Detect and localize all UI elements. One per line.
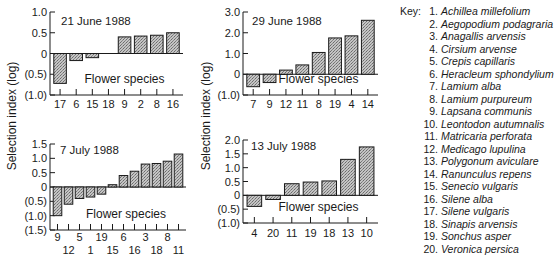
bar <box>108 185 117 187</box>
y-tick-label: (1.0) <box>24 210 47 222</box>
y-tick-label: 1.0 <box>225 162 240 174</box>
x-category-label: 8 <box>154 98 160 110</box>
bar <box>167 33 180 54</box>
key-item: 14.Ranunculus repens <box>420 168 550 181</box>
key-species-name: Silene alba <box>441 193 493 205</box>
key-number: 15. <box>420 180 438 193</box>
bar <box>130 171 139 187</box>
y-tick-label: (1.0) <box>24 89 47 101</box>
y-tick-label: (1.0) <box>217 89 240 101</box>
key-item: 18.Sinapis arvensis <box>420 218 550 231</box>
chart-panel-29-june: 3.02.01.00(1.0)29 June 1988791211819414F… <box>217 6 378 110</box>
key-item: 19.Sonchus asper <box>420 230 550 243</box>
key-species-name: Heracleum sphondylium <box>441 68 554 80</box>
bar <box>86 54 99 58</box>
x-category-label: 4 <box>251 227 257 239</box>
key-number: 11. <box>420 130 438 143</box>
x-axis-label: Flower species <box>278 200 358 214</box>
key-number: 19. <box>420 230 438 243</box>
key-item: 2.Aegopodium podagraria <box>420 18 550 31</box>
key-number: 18. <box>420 218 438 231</box>
key-item: 20.Veronica persica <box>420 243 550 256</box>
x-category-label: 19 <box>304 227 316 239</box>
key-list: 1.Achillea millefolium2.Aegopodium podag… <box>420 5 550 255</box>
x-category-label: 2 <box>138 98 144 110</box>
chart-panel-13-july: 2.01.51.00.50(0.5)(1.0)13 July 198842011… <box>217 134 378 239</box>
bar <box>97 187 106 194</box>
x-category-label: 1 <box>87 244 93 256</box>
x-category-label: 6 <box>120 231 126 243</box>
key-number: 17. <box>420 205 438 218</box>
chart-title: 21 June 1988 <box>61 15 131 27</box>
bar <box>152 163 161 187</box>
bar <box>312 52 325 74</box>
bar <box>359 147 374 195</box>
key-item: 13.Polygonum aviculare <box>420 155 550 168</box>
y-tick-label: 1.0 <box>32 152 47 164</box>
key-species-name: Matricaria perforata <box>441 130 532 142</box>
key-item: 17.Silene vulgaris <box>420 205 550 218</box>
x-category-label: 7 <box>250 98 256 110</box>
key-species-name: Anagallis arvensis <box>441 30 526 42</box>
bar <box>119 176 128 187</box>
y-tick-label: 0.5 <box>32 27 47 39</box>
bar <box>322 181 337 195</box>
x-axis-label: Flower species <box>84 72 164 86</box>
bar <box>53 187 62 216</box>
chart-title: 13 July 1988 <box>251 140 316 152</box>
y-tick-label: 0 <box>41 48 47 60</box>
key-item: 8.Lamium purpureum <box>420 93 550 106</box>
y-tick-label: 2.0 <box>225 134 240 146</box>
key-number: 3. <box>420 30 438 43</box>
x-category-label: 18 <box>323 227 335 239</box>
key-species-name: Sinapis arvensis <box>441 218 517 230</box>
key-item: 16.Silene alba <box>420 193 550 206</box>
key-title: Key: <box>400 5 421 18</box>
x-category-label: 9 <box>122 98 128 110</box>
x-category-label: 15 <box>86 98 98 110</box>
y-tick-label: 1.0 <box>32 6 47 18</box>
y-tick-label: (0.5) <box>217 203 240 215</box>
x-category-label: 20 <box>267 227 279 239</box>
chart-title: 7 July 1988 <box>60 144 119 156</box>
bar <box>64 187 73 204</box>
x-category-label: 18 <box>150 244 162 256</box>
x-category-label: 13 <box>342 227 354 239</box>
key-item: 3.Anagallis arvensis <box>420 30 550 43</box>
x-axis-label: Flower species <box>86 207 166 221</box>
key-number: 20. <box>420 243 438 256</box>
bar <box>266 195 281 199</box>
key-species-name: Ranunculus repens <box>441 168 531 180</box>
bar <box>263 74 276 82</box>
x-category-label: 3 <box>142 231 148 243</box>
bar <box>134 36 147 53</box>
bar <box>341 159 356 195</box>
chart-panel-21-june: 1.00.50(0.5)(1.0)21 June 198817615189281… <box>24 6 183 110</box>
bar <box>361 20 374 74</box>
x-category-label: 18 <box>102 98 114 110</box>
key-species-name: Achillea millefolium <box>441 5 530 17</box>
bar <box>247 74 260 86</box>
y-tick-label: 0.5 <box>32 167 47 179</box>
chart-title: 29 June 1988 <box>252 15 322 27</box>
key-species-name: Cirsium arvense <box>441 43 517 55</box>
bar <box>329 38 342 74</box>
chart-panel-7-july: 1.51.00.50(0.5)(1.0)(1.5)7 July 19889125… <box>24 138 186 256</box>
key-species-name: Silene vulgaris <box>441 205 509 217</box>
x-category-label: 4 <box>348 98 354 110</box>
x-category-label: 16 <box>128 244 140 256</box>
x-category-label: 6 <box>73 98 79 110</box>
key-item: 9.Lapsana communis <box>420 105 550 118</box>
key-number: 7. <box>420 80 438 93</box>
x-category-label: 5 <box>76 231 82 243</box>
x-category-label: 8 <box>164 231 170 243</box>
y-tick-label: 0 <box>41 181 47 193</box>
x-category-label: 10 <box>361 227 373 239</box>
x-category-label: 19 <box>95 231 107 243</box>
x-category-label: 17 <box>54 98 66 110</box>
key-number: 14. <box>420 168 438 181</box>
y-tick-label: 3.0 <box>225 6 240 18</box>
key-item: 1.Achillea millefolium <box>420 5 550 18</box>
x-category-label: 19 <box>329 98 341 110</box>
bar <box>303 182 318 195</box>
